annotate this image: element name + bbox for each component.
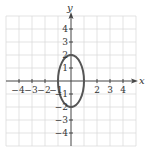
svg-text:2: 2 [94, 85, 100, 95]
svg-text:2: 2 [62, 50, 68, 60]
y-axis-label: y [66, 2, 73, 13]
axes [6, 15, 135, 146]
svg-text:−1: −1 [55, 89, 68, 99]
svg-text:−3: −3 [55, 115, 69, 125]
svg-text:1: 1 [62, 63, 68, 73]
svg-text:−2: −2 [55, 102, 68, 112]
svg-text:4: 4 [120, 85, 126, 95]
x-axis-label: x [139, 75, 145, 86]
svg-text:4: 4 [62, 24, 68, 34]
svg-text:−3: −3 [24, 85, 38, 95]
x-tick-labels: −4 −3 −2 −1 2 3 4 [11, 85, 126, 95]
svg-text:3: 3 [107, 85, 113, 95]
coordinate-plane: x y −4 −3 −2 −1 2 3 4 4 3 2 1 −1 −2 −3 −… [0, 0, 146, 155]
svg-text:−4: −4 [11, 85, 25, 95]
svg-text:−4: −4 [55, 128, 69, 138]
svg-text:3: 3 [62, 37, 68, 47]
